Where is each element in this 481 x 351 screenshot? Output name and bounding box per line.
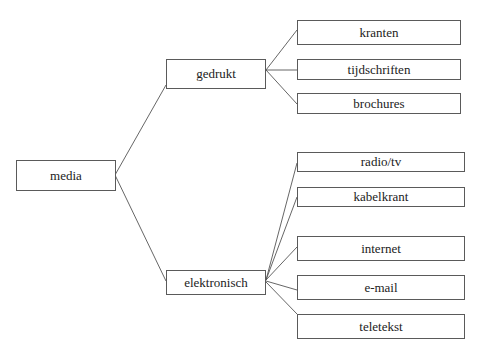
node-teletekst: teletekst xyxy=(297,314,465,339)
node-tijdschriften: tijdschriften xyxy=(297,59,461,80)
node-label: tijdschriften xyxy=(348,62,411,78)
node-e-mail: e-mail xyxy=(297,275,465,300)
connector-gedrukt-kranten xyxy=(266,30,297,70)
node-elektronisch: elektronisch xyxy=(166,270,266,295)
connector-gedrukt-brochures xyxy=(266,70,297,104)
node-label: media xyxy=(50,168,82,184)
node-label: kabelkrant xyxy=(354,189,409,205)
node-label: elektronisch xyxy=(184,275,248,291)
node-gedrukt: gedrukt xyxy=(166,59,266,89)
node-label: brochures xyxy=(353,96,404,112)
node-label: e-mail xyxy=(364,280,397,296)
tree-diagram: media gedrukt elektronisch kranten tijds… xyxy=(0,0,481,351)
node-kabelkrant: kabelkrant xyxy=(297,187,465,207)
node-kranten: kranten xyxy=(297,20,461,45)
node-radio-tv: radio/tv xyxy=(297,152,465,172)
node-label: kranten xyxy=(360,25,399,41)
connector-elektronisch-email xyxy=(266,281,297,290)
node-label: radio/tv xyxy=(361,154,401,170)
node-internet: internet xyxy=(297,236,465,261)
node-brochures: brochures xyxy=(297,93,461,114)
connector-elektronisch-radiotv xyxy=(266,163,297,280)
connector-media-elektronisch xyxy=(115,175,166,281)
node-media: media xyxy=(16,160,116,191)
node-label: internet xyxy=(361,241,401,257)
connector-media-gedrukt xyxy=(115,85,166,175)
connector-elektronisch-kabelkrant xyxy=(266,197,297,280)
connector-elektronisch-teletekst xyxy=(266,282,297,314)
node-label: teletekst xyxy=(359,319,402,335)
node-label: gedrukt xyxy=(196,66,236,82)
